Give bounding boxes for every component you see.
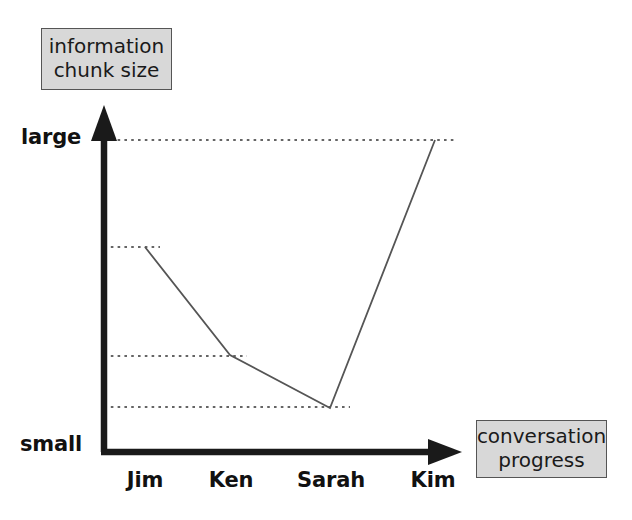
x-tick-label-jim: Jim xyxy=(127,468,163,492)
y-axis-title-line-1: information xyxy=(49,35,164,59)
y-axis-title-box: information chunk size xyxy=(41,28,172,90)
y-axis-label-small: small xyxy=(20,432,82,456)
chart-figure: information chunk size conversation prog… xyxy=(0,0,632,520)
y-axis-arrowhead xyxy=(91,105,117,141)
y-axis-title-line-2: chunk size xyxy=(54,59,160,83)
x-tick-label-kim: Kim xyxy=(411,468,456,492)
y-axis-label-large: large xyxy=(21,125,81,149)
x-axis-title-line-2: progress xyxy=(498,449,584,473)
data-series-line xyxy=(145,140,435,408)
x-axis-title-box: conversation progress xyxy=(476,420,607,478)
x-axis-title-line-1: conversation xyxy=(477,425,606,449)
x-tick-label-ken: Ken xyxy=(209,468,254,492)
x-tick-label-sarah: Sarah xyxy=(297,468,365,492)
x-axis-arrowhead xyxy=(428,439,462,465)
